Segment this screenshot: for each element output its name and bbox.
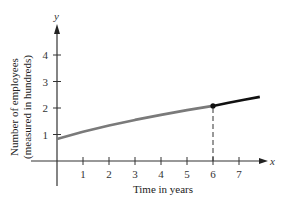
x-tick-label: 2 [106, 168, 112, 180]
x-axis-name: x [269, 155, 275, 167]
ticks: 12345671234 [43, 49, 243, 180]
x-tick-label: 6 [210, 168, 216, 180]
x-axis-arrow-icon [259, 158, 268, 164]
x-tick-label: 5 [184, 168, 190, 180]
y-tick-label: 4 [43, 49, 49, 61]
x-tick-label: 3 [132, 168, 138, 180]
data-point [210, 103, 215, 108]
y-tick-label: 1 [43, 129, 49, 141]
y-axis-label: Number of employees [8, 58, 20, 156]
x-axis-label: Time in years [133, 183, 193, 195]
annotations [210, 103, 215, 161]
y-axis-sublabel: (measured in hundreds) [21, 55, 34, 159]
x-tick-label: 7 [236, 168, 242, 180]
y-axis-name: y [53, 10, 59, 22]
chart: 12345671234 Time in years Number of empl… [0, 0, 287, 205]
x-tick-label: 4 [158, 168, 164, 180]
x-tick-label: 1 [80, 168, 86, 180]
series-line-observed [57, 106, 213, 139]
series-line-projected [213, 97, 260, 106]
y-tick-label: 3 [43, 76, 49, 88]
y-axis-arrow-icon [54, 24, 60, 34]
series-group [57, 97, 260, 139]
y-tick-label: 2 [43, 102, 49, 114]
axes [31, 24, 268, 186]
